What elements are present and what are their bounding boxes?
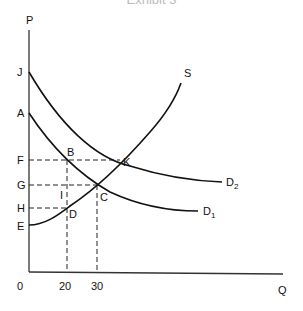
point-c: C bbox=[100, 191, 108, 203]
q-axis-label: Q bbox=[278, 284, 287, 296]
label-j: J bbox=[17, 66, 23, 78]
supply-demand-chart: P Q 0 20 30 J A F G H E B K C I D S D2 D… bbox=[0, 0, 303, 311]
tick-30: 30 bbox=[91, 280, 103, 292]
point-i: I bbox=[60, 189, 63, 201]
p-axis-label: P bbox=[26, 14, 33, 26]
label-d2: D2 bbox=[226, 176, 239, 191]
demand-curve-d1 bbox=[29, 113, 198, 211]
tick-20: 20 bbox=[59, 280, 71, 292]
label-a: A bbox=[17, 107, 25, 119]
point-d: D bbox=[69, 208, 77, 220]
label-e: E bbox=[17, 220, 24, 232]
label-s: S bbox=[184, 67, 191, 79]
label-g: G bbox=[17, 179, 26, 191]
label-f: F bbox=[17, 154, 24, 166]
point-b: B bbox=[67, 146, 74, 158]
origin-label: 0 bbox=[17, 280, 23, 292]
supply-curve-s bbox=[29, 83, 181, 225]
label-d1: D1 bbox=[203, 205, 216, 220]
x-axis bbox=[29, 272, 283, 274]
label-h: H bbox=[17, 202, 25, 214]
point-k: K bbox=[123, 156, 131, 168]
